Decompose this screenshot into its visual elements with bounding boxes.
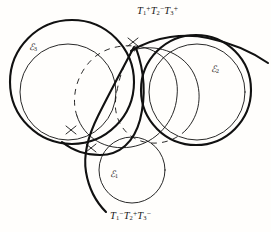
tangent-bottom-term-2: T2+ <box>124 210 138 221</box>
circle-label-c1: ℰ1 <box>110 170 118 179</box>
inner-circle-right-visible-arc <box>137 48 199 130</box>
tangent-bottom-term-3: T3− <box>137 210 151 221</box>
tangent-curve-bottom <box>85 47 134 212</box>
solution-circle-right <box>141 35 251 145</box>
figure-container: T1+T2−T3+ T1−T2+T3− ℰ3 ℰ2 ℰ1 <box>0 0 271 232</box>
tangent-label-top: T1+T2−T3+ <box>137 5 178 17</box>
base-circle-c3 <box>20 44 116 140</box>
tangent-circles-diagram <box>0 0 271 232</box>
circle-label-c1-sub: 1 <box>115 173 118 179</box>
tangent-bottom-term-3-sup: − <box>147 209 151 218</box>
tangent-term-1: T1+ <box>137 5 151 16</box>
mid-circle-hidden-arc <box>74 46 135 116</box>
base-circle-c2 <box>149 44 245 140</box>
circle-label-c2: ℰ2 <box>211 65 219 74</box>
tangent-term-3: T3+ <box>164 5 178 16</box>
tangent-label-bottom: T1−T2+T3− <box>110 210 151 222</box>
circle-label-c3: ℰ3 <box>29 43 37 52</box>
tangent-term-2: T2− <box>151 5 165 16</box>
circle-label-c2-sub: 2 <box>216 68 219 74</box>
tangent-term-3-sup: + <box>174 4 178 13</box>
tangent-bottom-term-1: T1− <box>110 210 124 221</box>
circle-label-c3-sub: 3 <box>34 46 37 52</box>
